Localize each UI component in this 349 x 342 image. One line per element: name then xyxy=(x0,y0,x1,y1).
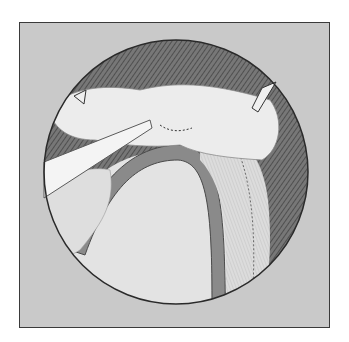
circular-view xyxy=(40,36,312,320)
surgical-illustration xyxy=(0,0,349,342)
